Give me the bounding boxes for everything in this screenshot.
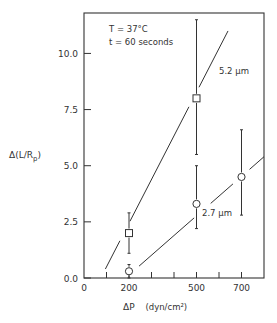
fit-line-segment (130, 107, 189, 221)
error-bars (128, 20, 244, 278)
fit-line-segment (199, 31, 228, 87)
circle-marker (193, 200, 200, 207)
y-axis-label: Δ(L/Rp) (9, 150, 41, 163)
x-axis-ticks: 0200500700 (81, 272, 250, 293)
x-tick-label: 0 (81, 283, 87, 293)
square-marker (193, 95, 200, 102)
x-tick-label: 500 (188, 283, 205, 293)
y-axis-ticks: 0.02.55.07.510.0 (58, 49, 91, 284)
x-tick-label: 200 (120, 283, 137, 293)
plot-svg: 0.02.55.07.510.0 0200500700 T = 37°C t =… (0, 0, 277, 323)
fit-line-segment (105, 241, 120, 269)
circle-marker (238, 173, 245, 180)
fit-line-segment (139, 218, 194, 266)
x-tick-label: 700 (233, 283, 250, 293)
x-axis-label-main: ΔP (123, 302, 135, 312)
condition-temperature: T = 37°C (108, 24, 148, 34)
series-label-2-7um: 2.7 μm (202, 208, 232, 218)
condition-time: t = 60 seconds (109, 37, 174, 47)
y-tick-label: 7.5 (64, 105, 78, 115)
series-label-5-2um: 5.2 μm (219, 66, 249, 76)
plot-frame (84, 13, 264, 278)
fit-line-segment (250, 157, 264, 170)
y-tick-label: 10.0 (58, 49, 78, 59)
square-marker (126, 230, 133, 237)
fit-line-segment (211, 184, 233, 204)
y-tick-label: 0.0 (64, 274, 79, 284)
x-axis-label-units: (dyn/cm²) (145, 302, 187, 312)
y-tick-label: 5.0 (64, 161, 79, 171)
y-axis-label-main: Δ(L/R (9, 150, 33, 160)
y-axis-label-close: ) (37, 150, 41, 160)
y-tick-label: 2.5 (64, 217, 78, 227)
data-markers (125, 95, 245, 275)
circle-marker (125, 268, 132, 275)
x-axis-label: ΔP (dyn/cm²) (123, 302, 187, 312)
chart-container: 0.02.55.07.510.0 0200500700 T = 37°C t =… (0, 0, 277, 323)
